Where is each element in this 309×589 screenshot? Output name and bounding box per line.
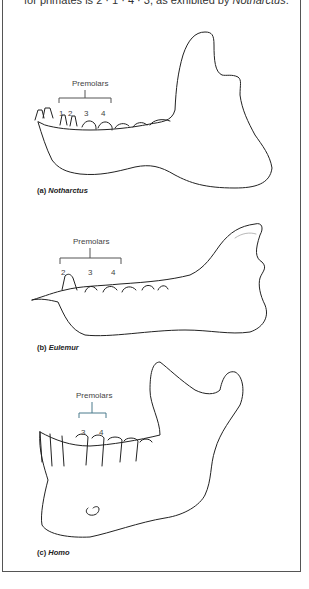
homo-jaw [40,362,243,537]
eulemur-jaw [32,224,267,336]
caption-b-genus: Eulemur [49,343,79,352]
premolar-number-a-1: 1 [59,109,64,118]
premolar-number-c-3: 3 [81,428,86,437]
caption-a-genus: Notharctus [48,186,88,195]
caption-b-prefix: (b) [37,343,47,352]
caption-a-prefix: (a) [37,186,46,195]
caption-c-genus: Homo [48,548,69,557]
premolar-number-c-4: 4 [99,428,104,437]
caption-a: (a) Notharctus [37,186,88,195]
caption-b: (b) Eulemur [37,343,79,352]
caption-c-prefix: (c) [37,548,46,557]
premolar-bracket-a [59,90,111,103]
premolars-label-c: Premolars [76,391,112,400]
premolar-number-b-3: 3 [88,268,93,277]
premolar-number-b-2: 2 [61,268,66,277]
premolars-label-a: Premolars [72,79,108,88]
premolar-number-b-4: 4 [111,268,116,277]
caption-c: (c) Homo [37,548,70,557]
jaw-illustrations: Premolars 1 2 3 4 Premolars 2 3 4 Premol… [0,0,309,589]
premolar-number-a-2: 2 [68,109,73,118]
premolar-number-a-4: 4 [101,109,106,118]
premolar-number-a-3: 3 [84,109,89,118]
premolar-bracket-b [60,248,121,264]
premolar-bracket-c [79,402,106,418]
premolars-label-b: Premolars [73,237,109,246]
